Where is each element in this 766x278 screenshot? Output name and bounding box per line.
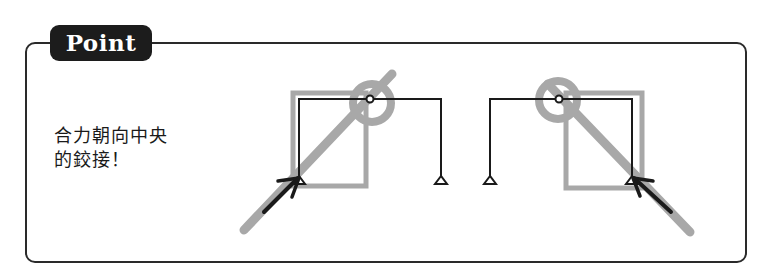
right-frame-members [490, 99, 632, 180]
left-frame-diagram [244, 74, 447, 230]
left-central-hinge-icon [367, 96, 374, 103]
left-frame-members [299, 99, 441, 180]
right-frame-diagram [484, 81, 690, 232]
right-support-a [484, 176, 496, 184]
right-central-hinge-icon [556, 96, 563, 103]
frame-diagrams [0, 0, 766, 278]
left-support-b [435, 176, 447, 184]
